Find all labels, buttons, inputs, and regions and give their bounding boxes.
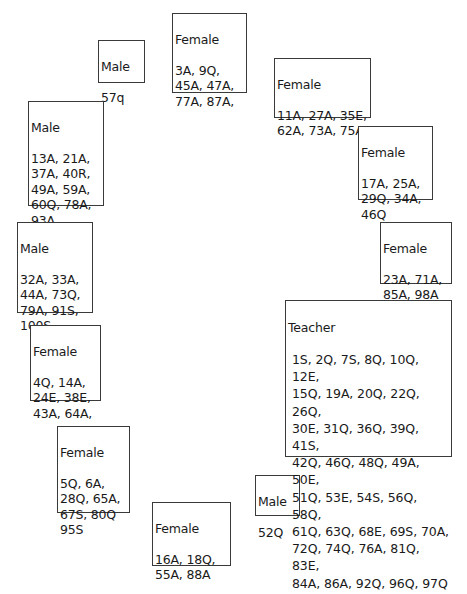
participant-role: Female xyxy=(277,77,368,93)
participant-role: Male xyxy=(20,241,90,257)
participant-role: Female xyxy=(175,32,244,48)
participant-box-female-17: Female 17A, 25A, 29Q, 34A, 46Q xyxy=(358,126,433,200)
participant-box-female-4: Female 4Q, 14A, 24E, 38E, 43A, 64A, xyxy=(30,325,101,401)
participant-box-male-32: Male 32A, 33A, 44A, 73Q, 79A, 91S, 100S xyxy=(17,222,93,313)
participant-codes: 5Q, 6A, 28Q, 65A, 67S, 80Q 95S xyxy=(60,476,127,538)
participant-role: Male xyxy=(31,120,101,136)
participant-codes: 3A, 9Q, 45A, 47A, 77A, 87A, xyxy=(175,63,244,110)
participant-role: Teacher xyxy=(288,319,449,336)
participant-box-female-23: Female 23A, 71A, 85A, 98A xyxy=(380,222,452,284)
participant-role: Female xyxy=(361,145,430,161)
participant-codes: 4Q, 14A, 24E, 38E, 43A, 64A, xyxy=(33,375,98,422)
participant-role: Male xyxy=(101,59,142,75)
participant-role: Female xyxy=(383,241,449,257)
participant-codes: 13A, 21A, 37A, 40R, 49A, 59A, 60Q, 78A, … xyxy=(31,151,101,229)
participant-box-male-13: Male 13A, 21A, 37A, 40R, 49A, 59A, 60Q, … xyxy=(28,101,104,206)
participant-codes: 57q xyxy=(101,90,142,106)
participant-codes: 11A, 27A, 35E, 62A, 73A, 75A xyxy=(277,108,368,139)
participant-role: Female xyxy=(155,521,228,537)
participant-role: Female xyxy=(60,445,127,461)
participant-codes: 23A, 71A, 85A, 98A xyxy=(383,272,449,303)
participant-box-female-3: Female 3A, 9Q, 45A, 47A, 77A, 87A, xyxy=(172,13,247,93)
participant-role: Female xyxy=(33,344,98,360)
participant-box-female-16: Female 16A, 18Q, 55A, 88A xyxy=(152,502,231,566)
participant-codes: 1S, 2Q, 7S, 8Q, 10Q, 12E, 15Q, 19A, 20Q,… xyxy=(288,351,449,592)
participant-box-female-11: Female 11A, 27A, 35E, 62A, 73A, 75A xyxy=(274,58,371,118)
participant-box-teacher: Teacher 1S, 2Q, 7S, 8Q, 10Q, 12E, 15Q, 1… xyxy=(285,300,452,457)
participant-box-male-57: Male 57q xyxy=(98,40,145,83)
participant-codes: 16A, 18Q, 55A, 88A xyxy=(155,552,228,583)
participant-box-female-5: Female 5Q, 6A, 28Q, 65A, 67S, 80Q 95S xyxy=(57,426,130,513)
participant-codes: 17A, 25A, 29Q, 34A, 46Q xyxy=(361,176,430,223)
